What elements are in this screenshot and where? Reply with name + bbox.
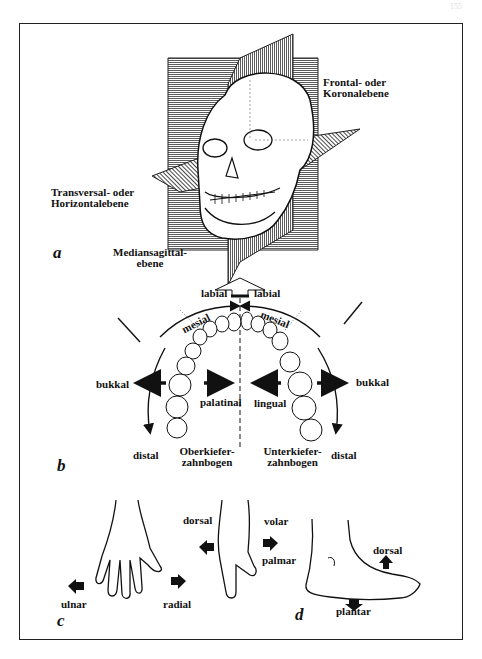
label-bukkal-right: bukkal <box>356 377 389 388</box>
label-labial-right: labial <box>254 288 280 299</box>
label-upper-dental-arch: Oberkiefer- zahnbogen <box>172 446 242 468</box>
panel-letter-c: c <box>57 611 65 631</box>
label-lingual: lingual <box>254 398 286 409</box>
label-median-sagittal-plane: Mediansagittal- ebene <box>100 247 200 269</box>
label-dorsal-foot: dorsal <box>373 545 402 556</box>
label-ulnar: ulnar <box>61 599 87 610</box>
label-radial: radial <box>163 599 191 610</box>
label-labial-left: labial <box>201 288 227 299</box>
hand-side-illustration <box>218 500 256 598</box>
label-palmar: palmar <box>262 555 296 566</box>
label-plantar: plantar <box>336 606 371 617</box>
foot-illustration <box>306 519 420 600</box>
panel-letter-d: d <box>295 605 304 625</box>
hand-dorsal-illustration <box>96 500 162 598</box>
panel-letter-b: b <box>57 456 66 476</box>
figure-illustrations <box>0 0 482 659</box>
label-dorsal-hand: dorsal <box>183 515 212 526</box>
label-bukkal-left: bukkal <box>96 379 129 390</box>
dental-arch-illustration <box>118 278 362 450</box>
label-frontal-plane: Frontal- oder Koronalebene <box>323 77 389 99</box>
label-lower-dental-arch: Unterkiefer- zahnbogen <box>255 446 330 468</box>
label-transversal-plane: Transversal- oder Horizontalebene <box>51 187 134 209</box>
label-volar: volar <box>264 516 288 527</box>
label-palatinal: palatinal <box>200 397 242 408</box>
label-distal-right: distal <box>331 450 357 461</box>
label-distal-left: distal <box>133 450 159 461</box>
panel-letter-a: a <box>53 243 62 263</box>
